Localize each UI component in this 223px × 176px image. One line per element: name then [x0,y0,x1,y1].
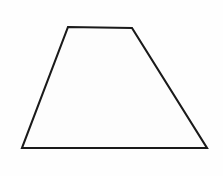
shape-drawing-surface [0,0,223,176]
trapezoid-shape [22,27,207,148]
figure-canvas [0,0,223,176]
